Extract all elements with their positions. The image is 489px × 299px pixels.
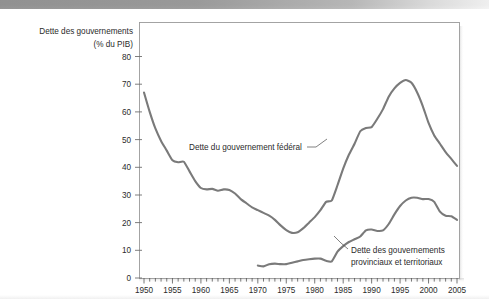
x-tick-label-1960: 1960: [192, 286, 211, 295]
y-axis-title-line2: (% du PIB): [93, 40, 133, 49]
provincial-annotation-label-line2: provinciaux et territoriaux: [351, 258, 442, 267]
x-tick-label-1995: 1995: [391, 286, 410, 295]
y-tick-label-80: 80: [122, 53, 132, 62]
y-tick-label-10: 10: [122, 246, 132, 255]
federal-annotation-label: Dette du gouvernement fédéral: [189, 143, 302, 152]
x-tick-label-1970: 1970: [249, 286, 268, 295]
y-tick-label-70: 70: [122, 80, 132, 89]
x-tick-label-2005: 2005: [448, 286, 467, 295]
y-tick-label-0: 0: [126, 274, 131, 283]
y-tick-label-50: 50: [122, 136, 132, 145]
x-tick-label-1985: 1985: [334, 286, 353, 295]
y-axis-tick-labels: 80 70 60 50 40 30 20 10 0: [122, 53, 132, 284]
y-tick-label-30: 30: [122, 191, 132, 200]
x-axis-tick-labels: 1950195519601965197019751980198519901995…: [135, 286, 467, 295]
x-tick-label-1965: 1965: [220, 286, 239, 295]
x-tick-label-1980: 1980: [306, 286, 325, 295]
x-tick-label-1950: 1950: [135, 286, 154, 295]
x-tick-label-2000: 2000: [419, 286, 438, 295]
y-tick-label-40: 40: [122, 163, 132, 172]
x-tick-label-1990: 1990: [363, 286, 382, 295]
provincial-annotation-label-line1: Dette des gouvernements: [351, 246, 445, 255]
figure-container: Dette des gouvernements (% du PIB) 80 70…: [0, 0, 489, 299]
y-tick-label-60: 60: [122, 108, 132, 117]
line-chart: Dette des gouvernements (% du PIB) 80 70…: [0, 0, 489, 299]
y-axis-title-line1: Dette des gouvernements: [39, 27, 133, 36]
x-tick-label-1955: 1955: [163, 286, 182, 295]
y-tick-label-20: 20: [122, 219, 132, 228]
x-tick-label-1975: 1975: [277, 286, 296, 295]
